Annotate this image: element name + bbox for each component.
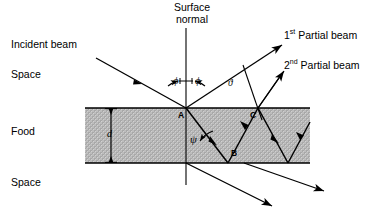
first-partial-beam-label: 1st Partial beam [284,28,357,41]
point-c-label: C [250,110,256,120]
surface-normal-label-line2: normal [161,14,223,26]
phi-reflection-angle-label: ϕ [195,74,201,86]
angle-arc-theta [241,78,247,90]
food-slab [85,108,310,163]
point-a-label: A [178,110,184,120]
space-top-label: Space [11,69,41,81]
space-bottom-label: Space [11,177,41,189]
phi-incidence-angle-label: ϕ [173,74,179,86]
point-b-label: B [231,148,237,158]
surface-normal-label-line1: Surface [161,2,223,14]
surface-normal-label: Surface normal [161,2,223,26]
thickness-label-d: d [107,128,112,139]
transmitted-ray-from-d [244,163,324,191]
food-label: Food [11,126,35,138]
transmitted-ray-from-b [186,163,272,206]
first-partial-beam-text: Partial beam [295,29,357,41]
incident-beam-label: Incident beam [11,39,77,51]
second-partial-beam-ordinal-suffix: nd [290,58,298,65]
psi-refraction-angle-label: ψ [190,133,197,145]
theta-angle-label: ϑ [228,78,233,88]
figure-canvas: Surface normal Incident beam Space Food … [0,0,388,222]
second-partial-beam-text: Partial beam [298,59,360,71]
second-partial-beam-label: 2nd Partial beam [284,58,360,71]
